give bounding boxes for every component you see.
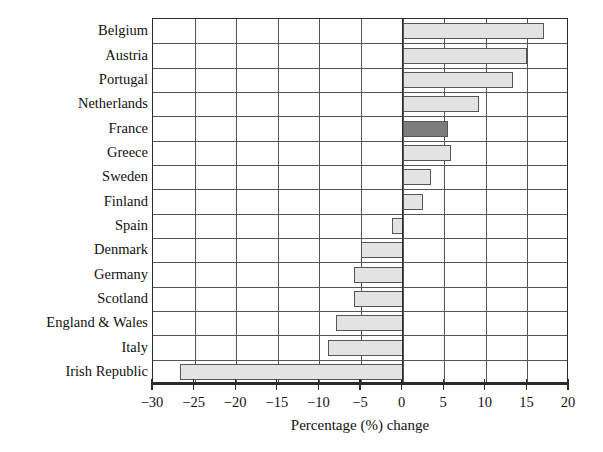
vertical-gridline: [236, 19, 237, 382]
x-axis-tick-labels: −30−25−20−15−10−505101520: [112, 395, 603, 417]
y-axis-category-labels: BelgiumAustriaPortugalNetherlandsFranceG…: [0, 18, 148, 383]
x-axis-title: Percentage (%) change: [152, 418, 568, 433]
y-axis-label: Scotland: [0, 291, 148, 306]
bar: [403, 23, 544, 39]
horizontal-gridline: [153, 141, 567, 142]
horizontal-gridline: [153, 165, 567, 166]
bar: [403, 194, 424, 210]
y-axis-label: Netherlands: [0, 96, 148, 111]
bar: [403, 169, 431, 185]
y-axis-label: Finland: [0, 194, 148, 209]
horizontal-gridline: [153, 214, 567, 215]
bar-chart: BelgiumAustriaPortugalNetherlandsFranceG…: [0, 0, 603, 452]
y-axis-label: Austria: [0, 48, 148, 63]
horizontal-gridline: [153, 43, 567, 44]
bar: [336, 315, 403, 331]
horizontal-gridline: [153, 335, 567, 336]
horizontal-gridline: [153, 189, 567, 190]
horizontal-gridline: [153, 238, 567, 239]
y-axis-label: Greece: [0, 145, 148, 160]
x-axis-tick-label: −5: [352, 395, 367, 410]
x-axis-tick: [567, 379, 568, 390]
y-axis-label: Belgium: [0, 23, 148, 38]
y-axis-label: Irish Republic: [0, 364, 148, 379]
horizontal-gridline: [153, 262, 567, 263]
y-axis-label: Germany: [0, 267, 148, 282]
bar: [180, 364, 402, 380]
bar: [328, 340, 403, 356]
x-axis-tick-label: −30: [141, 395, 164, 410]
x-axis-tick-label: −20: [224, 395, 247, 410]
bar: [403, 72, 514, 88]
x-axis-tick: [359, 379, 360, 390]
x-axis-tick: [276, 379, 277, 390]
x-axis-tick-label: 5: [440, 395, 447, 410]
y-axis-label: Spain: [0, 218, 148, 233]
x-axis-tick: [526, 379, 527, 390]
y-axis-label: Denmark: [0, 242, 148, 257]
y-axis-label: Italy: [0, 340, 148, 355]
x-axis-tick-label: 15: [519, 395, 534, 410]
horizontal-gridline: [153, 92, 567, 93]
x-axis-tick: [401, 379, 402, 390]
x-axis-tick: [151, 379, 152, 390]
vertical-gridline: [278, 19, 279, 382]
x-axis-tick-label: −15: [265, 395, 288, 410]
bar: [354, 267, 403, 283]
bar: [403, 121, 448, 137]
x-axis-tick: [318, 379, 319, 390]
x-axis-tick-label: −25: [182, 395, 205, 410]
y-axis-label: France: [0, 121, 148, 136]
x-axis-tick-label: 0: [398, 395, 405, 410]
x-axis-tick: [193, 379, 194, 390]
vertical-gridline: [319, 19, 320, 382]
horizontal-gridline: [153, 311, 567, 312]
y-axis-label: Portugal: [0, 72, 148, 87]
bar: [361, 242, 403, 258]
bar: [354, 291, 402, 307]
x-axis-tick: [235, 379, 236, 390]
horizontal-gridline: [153, 116, 567, 117]
vertical-gridline: [195, 19, 196, 382]
x-axis-tick-label: −10: [307, 395, 330, 410]
y-axis-label: England & Wales: [0, 315, 148, 330]
vertical-gridline: [527, 19, 528, 382]
bar: [403, 145, 451, 161]
horizontal-gridline: [153, 360, 567, 361]
x-axis-tick: [484, 379, 485, 390]
horizontal-gridline: [153, 287, 567, 288]
zero-baseline: [402, 19, 404, 382]
plot-area: [152, 18, 568, 383]
bar: [403, 96, 480, 112]
x-axis-tick-label: 20: [561, 395, 576, 410]
x-axis-tick-label: 10: [478, 395, 493, 410]
bar: [403, 48, 528, 64]
horizontal-gridline: [153, 68, 567, 69]
y-axis-label: Sweden: [0, 169, 148, 184]
x-axis-tick: [443, 379, 444, 390]
